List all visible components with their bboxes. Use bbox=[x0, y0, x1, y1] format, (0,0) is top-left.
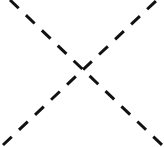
diagram-canvas bbox=[0, 0, 164, 147]
dashed-x-figure bbox=[0, 0, 164, 147]
